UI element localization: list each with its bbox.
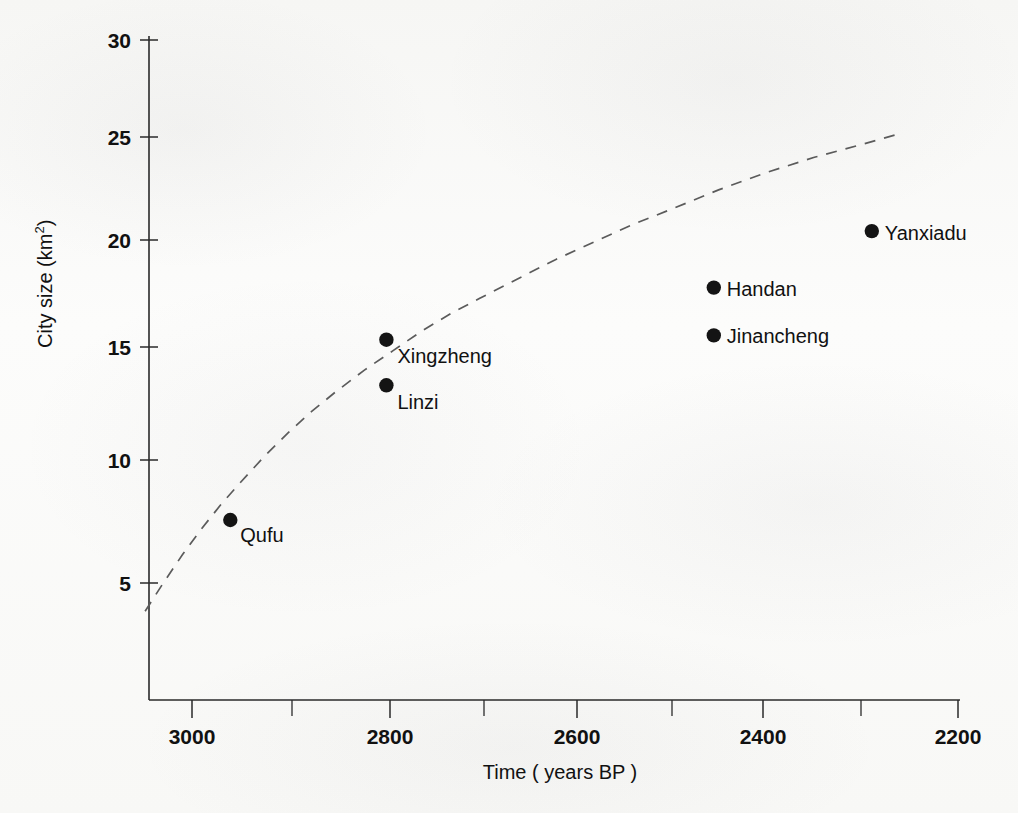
data-point-qufu[interactable]: Qufu xyxy=(223,513,284,546)
point-label: Yanxiadu xyxy=(885,222,967,244)
data-point-xingzheng[interactable]: Xingzheng xyxy=(379,333,492,367)
point-label: Linzi xyxy=(397,391,438,413)
chart-figure: 30 25 20 15 10 5 3000 2800 2600 2400 xyxy=(0,0,1018,813)
x-axis-title: Time ( years BP ) xyxy=(483,761,637,783)
data-point-linzi[interactable]: Linzi xyxy=(379,378,438,413)
x-tick-label-2600: 2600 xyxy=(554,725,601,748)
x-axis-tick-labels: 3000 2800 2600 2400 2200 xyxy=(169,725,982,748)
y-tick-label-30: 30 xyxy=(108,29,131,52)
point-marker xyxy=(865,224,879,238)
data-point-handan[interactable]: Handan xyxy=(707,278,797,300)
x-tick-label-2200: 2200 xyxy=(935,725,982,748)
point-label: Jinancheng xyxy=(727,325,829,347)
y-axis-title-base: City size (km xyxy=(34,234,56,348)
data-points-layer: QufuLinziXingzhengJinanchengHandanYanxia… xyxy=(223,222,967,546)
point-label: Handan xyxy=(727,278,797,300)
point-label: Qufu xyxy=(240,524,283,546)
point-marker xyxy=(223,513,237,527)
point-marker xyxy=(707,328,721,342)
scatter-plot: 30 25 20 15 10 5 3000 2800 2600 2400 xyxy=(0,0,1018,813)
point-marker xyxy=(707,280,721,294)
svg-text:City size (km2): City size (km2) xyxy=(32,220,56,348)
point-marker xyxy=(379,378,393,392)
x-axis-ticks xyxy=(192,700,958,718)
y-tick-label-10: 10 xyxy=(108,449,131,472)
y-tick-label-25: 25 xyxy=(108,126,132,149)
data-point-jinancheng[interactable]: Jinancheng xyxy=(707,325,830,347)
data-point-yanxiadu[interactable]: Yanxiadu xyxy=(865,222,967,244)
y-tick-label-5: 5 xyxy=(119,572,131,595)
y-axis-tick-labels: 30 25 20 15 10 5 xyxy=(108,29,132,595)
y-axis-title-superscript: 2 xyxy=(32,226,47,233)
y-axis-title-tail: ) xyxy=(34,220,56,227)
x-tick-label-2800: 2800 xyxy=(367,725,414,748)
point-label: Xingzheng xyxy=(397,345,492,367)
y-tick-label-15: 15 xyxy=(108,336,132,359)
x-tick-label-2400: 2400 xyxy=(740,725,787,748)
point-marker xyxy=(379,333,393,347)
x-tick-label-3000: 3000 xyxy=(169,725,216,748)
y-tick-label-20: 20 xyxy=(108,229,131,252)
y-axis-title: City size (km2) xyxy=(32,220,56,348)
